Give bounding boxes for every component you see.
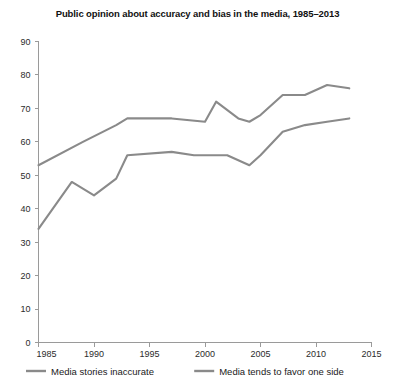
- y-tick-label: 50: [20, 171, 30, 181]
- x-tick-label: 2005: [250, 349, 270, 359]
- y-tick-label: 20: [20, 271, 30, 281]
- y-tick-label: 30: [20, 238, 30, 248]
- x-tick-label: 1990: [84, 349, 104, 359]
- y-tick-label: 10: [20, 304, 30, 314]
- series-lines: [39, 85, 350, 229]
- y-tick-label: 80: [20, 70, 30, 80]
- y-tick-label: 70: [20, 104, 30, 114]
- legend-label: Media tends to favor one side: [219, 366, 344, 377]
- series-line: [39, 118, 350, 228]
- y-axis: 0102030405060708090: [20, 37, 38, 348]
- x-tick-label: 2010: [306, 349, 326, 359]
- x-tick-label: 2000: [195, 349, 215, 359]
- chart-legend: Media stories inaccurateMedia tends to f…: [26, 366, 344, 377]
- y-tick-label: 60: [20, 137, 30, 147]
- line-chart-plot: 0102030405060708090 19851990199520002005…: [0, 0, 395, 387]
- y-tick-label: 90: [20, 37, 30, 47]
- x-tick-label: 1985: [37, 349, 57, 359]
- y-tick-label: 40: [20, 204, 30, 214]
- y-tick-label: 0: [25, 338, 30, 348]
- x-tick-label: 1995: [139, 349, 159, 359]
- x-tick-label: 2015: [361, 349, 381, 359]
- legend-label: Media stories inaccurate: [51, 366, 154, 377]
- x-axis: 1985199019952000200520102015: [37, 343, 382, 359]
- chart-container: Public opinion about accuracy and bias i…: [0, 0, 395, 387]
